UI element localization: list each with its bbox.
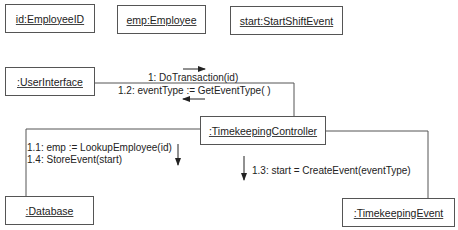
object-label: start:StartShiftEvent [240,15,333,27]
message-1-4: 1.4: StoreEvent(start) [27,154,122,166]
object-label: id:EmployeeID [16,13,84,25]
object-start-shift-event: start:StartShiftEvent [230,6,343,35]
object-label: :TimekeepingEvent [354,207,444,219]
message-1-2: 1.2: eventType := GetEventType( ) [118,85,271,97]
object-employee: emp:Employee [117,5,206,34]
object-label: :Database [26,205,74,217]
object-timekeeping-event: :TimekeepingEvent [342,198,455,227]
object-label: :UserInterface [17,76,83,88]
object-user-interface: :UserInterface [5,67,95,96]
object-label: :TimekeepingController [209,125,317,137]
message-1-1: 1.1: emp := LookupEmployee(id) [27,142,172,154]
object-database: :Database [5,196,94,225]
message-1: 1: DoTransaction(id) [148,72,238,84]
object-employee-id: id:EmployeeID [5,4,95,33]
object-label: emp:Employee [126,14,196,26]
object-timekeeping-controller: :TimekeepingController [200,116,326,145]
message-1-3: 1.3: start = CreateEvent(eventType) [252,165,411,177]
